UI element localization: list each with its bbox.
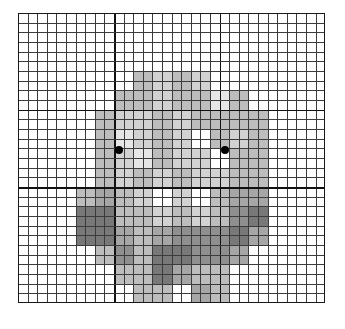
- grayscale-block: [229, 129, 248, 148]
- grayscale-block: [76, 206, 95, 225]
- grayscale-block: [95, 187, 114, 206]
- grayscale-block: [152, 245, 171, 264]
- grayscale-block: [191, 90, 210, 109]
- grayscale-block: [133, 110, 152, 129]
- visual-field-plot: Visual Field Grayscale Plot Grayscale pr…: [0, 0, 345, 329]
- grayscale-block: [133, 245, 152, 264]
- grayscale-block: [133, 129, 152, 148]
- grayscale-block: [95, 226, 114, 245]
- grayscale-block: [210, 206, 229, 225]
- grayscale-block: [114, 110, 133, 129]
- grayscale-block: [229, 90, 248, 109]
- grayscale-block: [210, 226, 229, 245]
- grayscale-block: [152, 90, 171, 109]
- grayscale-block: [152, 206, 171, 225]
- grayscale-block: [248, 129, 267, 148]
- grayscale-block: [172, 168, 191, 187]
- grayscale-block: [172, 187, 191, 206]
- grayscale-block: [248, 148, 267, 167]
- grayscale-block: [172, 264, 191, 283]
- grayscale-block: [152, 226, 171, 245]
- blind-spot-right-marker: [221, 146, 229, 154]
- grayscale-block: [152, 168, 171, 187]
- grayscale-block: [114, 226, 133, 245]
- grayscale-block: [95, 168, 114, 187]
- grayscale-block: [210, 110, 229, 129]
- grayscale-block: [191, 168, 210, 187]
- grayscale-block: [191, 226, 210, 245]
- grayscale-block: [229, 110, 248, 129]
- grayscale-block: [210, 187, 229, 206]
- grayscale-block: [152, 148, 171, 167]
- grayscale-block: [191, 245, 210, 264]
- grayscale-block: [191, 148, 210, 167]
- grayscale-block: [210, 90, 229, 109]
- grayscale-block: [248, 110, 267, 129]
- grayscale-block: [229, 245, 248, 264]
- grayscale-block: [229, 206, 248, 225]
- grayscale-block: [133, 284, 152, 303]
- grayscale-block: [114, 206, 133, 225]
- grayscale-block: [133, 90, 152, 109]
- grayscale-block: [172, 110, 191, 129]
- grayscale-block: [95, 110, 114, 129]
- grayscale-block: [172, 245, 191, 264]
- grayscale-block: [95, 245, 114, 264]
- grayscale-block: [248, 187, 267, 206]
- grayscale-block: [114, 90, 133, 109]
- grayscale-block: [114, 264, 133, 283]
- grayscale-block: [210, 264, 229, 283]
- grayscale-block: [133, 71, 152, 90]
- grayscale-block: [133, 226, 152, 245]
- grayscale-block: [152, 71, 171, 90]
- grayscale-block: [191, 206, 210, 225]
- grayscale-block: [191, 110, 210, 129]
- grayscale-block: [95, 129, 114, 148]
- grayscale-block: [172, 90, 191, 109]
- grayscale-block: [172, 71, 191, 90]
- grayscale-block-layer: [18, 13, 325, 303]
- grayscale-block: [152, 264, 171, 283]
- grayscale-block: [133, 168, 152, 187]
- grayscale-block: [229, 226, 248, 245]
- grayscale-block: [172, 206, 191, 225]
- grayscale-block: [248, 206, 267, 225]
- grayscale-block: [152, 129, 171, 148]
- grayscale-block: [114, 168, 133, 187]
- grayscale-block: [229, 168, 248, 187]
- grayscale-block: [152, 284, 171, 303]
- grayscale-block: [133, 148, 152, 167]
- grayscale-block: [114, 245, 133, 264]
- grayscale-block: [95, 206, 114, 225]
- grayscale-block: [248, 168, 267, 187]
- grayscale-block: [172, 226, 191, 245]
- grayscale-block: [152, 110, 171, 129]
- grayscale-block: [191, 71, 210, 90]
- grayscale-block: [76, 187, 95, 206]
- grayscale-block: [95, 148, 114, 167]
- grayscale-block: [133, 187, 152, 206]
- grayscale-block: [229, 187, 248, 206]
- grayscale-block: [172, 129, 191, 148]
- grayscale-block: [210, 284, 229, 303]
- grayscale-block: [191, 284, 210, 303]
- grayscale-block: [114, 187, 133, 206]
- grayscale-block: [248, 226, 267, 245]
- grayscale-block: [191, 264, 210, 283]
- grayscale-block: [133, 264, 152, 283]
- blind-spot-left-marker: [115, 146, 123, 154]
- grayscale-block: [210, 245, 229, 264]
- grayscale-block: [210, 168, 229, 187]
- grayscale-block: [172, 148, 191, 167]
- grayscale-block: [229, 148, 248, 167]
- grayscale-block: [133, 206, 152, 225]
- grayscale-block: [76, 226, 95, 245]
